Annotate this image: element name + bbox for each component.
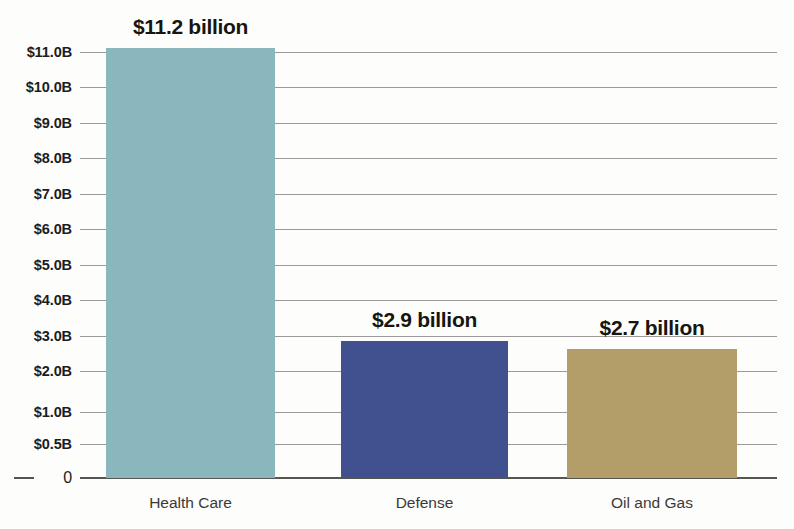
y-axis-tick-label: $8.0B (0, 150, 72, 166)
category-label-defense: Defense (341, 494, 508, 512)
bar-oil-and-gas[interactable] (567, 349, 737, 478)
plot-area: $11.0B$10.0B$9.0B$8.0B$7.0B$6.0B$5.0B$4.… (0, 0, 794, 529)
value-label-oil-and-gas: $2.7 billion (567, 316, 737, 340)
value-label-health-care: $11.2 billion (106, 15, 275, 39)
bar-health-care[interactable] (106, 48, 275, 478)
value-label-defense: $2.9 billion (341, 308, 508, 332)
y-axis-tick-label: $6.0B (0, 221, 72, 237)
y-axis-tick-label: 0 (0, 469, 72, 487)
bar-chart: $11.0B$10.0B$9.0B$8.0B$7.0B$6.0B$5.0B$4.… (0, 0, 794, 529)
y-axis-tick-label: $5.0B (0, 257, 72, 273)
y-axis-tick-label: $1.0B (0, 404, 72, 420)
y-axis-tick-label: $4.0B (0, 292, 72, 308)
y-axis-tick-label: $3.0B (0, 328, 72, 344)
y-axis-tick-label: $2.0B (0, 363, 72, 379)
y-axis-tick-label: $11.0B (0, 44, 72, 60)
y-axis-tick-label: $7.0B (0, 186, 72, 202)
y-axis-tick-label: $9.0B (0, 115, 72, 131)
bar-defense[interactable] (341, 341, 508, 478)
category-label-oil-and-gas: Oil and Gas (567, 494, 737, 512)
category-label-health-care: Health Care (106, 494, 275, 512)
y-axis-tick-label: $10.0B (0, 79, 72, 95)
zero-tick-dash (14, 477, 34, 479)
y-axis-tick-label: $0.5B (0, 436, 72, 452)
